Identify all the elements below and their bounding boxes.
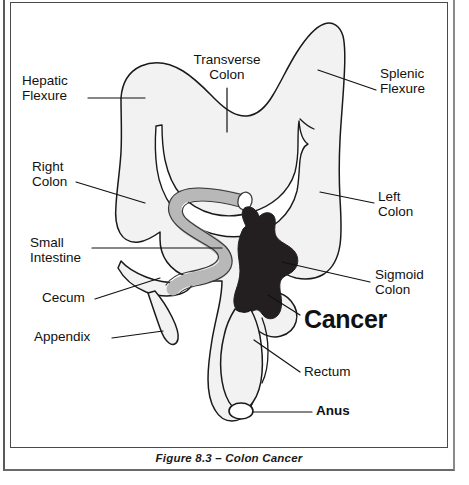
figure-caption: Figure 8.3 – Colon Cancer <box>10 452 448 464</box>
label-small-intestine-line2: Intestine <box>30 250 81 265</box>
figure-container: HepaticFlexure TransverseColon SplenicFl… <box>0 0 469 485</box>
appendix-path <box>148 291 178 344</box>
label-hepatic-flexure-line2: Flexure <box>22 88 67 103</box>
label-sigmoid-colon-line2: Colon <box>375 282 410 297</box>
label-sigmoid-colon-line1: Sigmoid <box>375 267 424 282</box>
label-small-intestine-line1: Small <box>30 235 64 250</box>
rectum-path <box>221 309 263 410</box>
label-hepatic-flexure-line1: Hepatic <box>22 73 68 88</box>
label-anus: Anus <box>316 404 350 419</box>
leader-appendix <box>112 331 163 338</box>
label-cancer: Cancer <box>304 312 387 327</box>
label-small-intestine: SmallIntestine <box>30 236 81 265</box>
label-rectum: Rectum <box>304 365 351 380</box>
label-splenic-flexure-line1: Splenic <box>380 66 424 81</box>
label-sigmoid-colon: SigmoidColon <box>375 268 424 297</box>
label-left-colon: LeftColon <box>378 190 413 219</box>
label-left-colon-line2: Colon <box>378 204 413 219</box>
label-right-colon-line1: Right <box>32 159 64 174</box>
label-transverse-colon: TransverseColon <box>176 53 278 82</box>
label-right-colon: RightColon <box>32 160 67 189</box>
label-appendix: Appendix <box>34 330 90 345</box>
label-hepatic-flexure: HepaticFlexure <box>22 74 68 103</box>
label-transverse-colon-line1: Transverse <box>193 52 260 67</box>
label-left-colon-line1: Left <box>378 189 401 204</box>
label-right-colon-line2: Colon <box>32 174 67 189</box>
label-splenic-flexure: SplenicFlexure <box>380 67 425 96</box>
label-cecum: Cecum <box>42 291 85 306</box>
label-splenic-flexure-line2: Flexure <box>380 81 425 96</box>
anus-opening <box>229 403 253 419</box>
label-transverse-colon-line2: Colon <box>209 67 244 82</box>
